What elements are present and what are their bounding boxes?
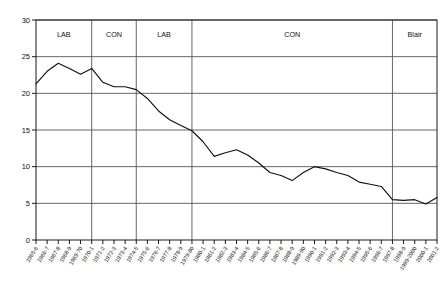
era-label-con-3: CON	[284, 30, 300, 39]
data-series-line	[36, 63, 437, 204]
x-axis-labels: 1965-61966-71967-81968-91969-701970-1197…	[25, 245, 440, 271]
series-line	[36, 63, 437, 204]
era-label-lab-0: LAB	[57, 30, 71, 39]
x-axis-ticks	[36, 240, 437, 244]
gridlines-group	[36, 20, 437, 203]
y-axis-ticks	[32, 20, 36, 240]
y-tick-label-5: 5	[26, 199, 30, 208]
era-label-con-1: CON	[106, 30, 122, 39]
y-tick-label-20: 20	[22, 89, 30, 98]
y-tick-label-25: 25	[22, 52, 30, 61]
y-axis-labels: 051015202530	[22, 16, 30, 245]
chart-canvas: 051015202530 1965-61966-71967-81968-9196…	[0, 0, 447, 292]
y-tick-label-15: 15	[22, 126, 30, 135]
y-tick-label-0: 0	[26, 236, 30, 245]
y-tick-label-30: 30	[22, 16, 30, 25]
line-chart: 051015202530 1965-61966-71967-81968-9196…	[0, 0, 447, 292]
era-label-lab-2: LAB	[157, 30, 171, 39]
era-labels-group: LABCONLABCONBlair	[57, 30, 422, 39]
era-label-blair-4: Blair	[408, 30, 423, 39]
y-tick-label-10: 10	[22, 162, 30, 171]
